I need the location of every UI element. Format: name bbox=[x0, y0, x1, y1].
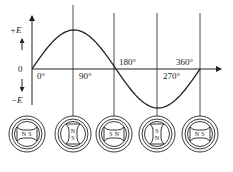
y-label-negative: −E bbox=[11, 95, 23, 105]
x-tick-360: 360° bbox=[176, 57, 194, 67]
magnet-icon bbox=[66, 124, 80, 144]
rotor-3: SN bbox=[139, 116, 175, 152]
magnet-icon bbox=[150, 124, 164, 144]
x-tick-90: 90° bbox=[79, 71, 92, 81]
pole-label: S bbox=[155, 128, 158, 134]
rotor-1: NS bbox=[55, 116, 91, 152]
y-label-positive: +E bbox=[10, 25, 22, 35]
rotor-4: NS bbox=[182, 116, 218, 152]
x-tick-180: 180° bbox=[119, 57, 137, 67]
pole-label: S bbox=[71, 135, 74, 141]
pole-label: N bbox=[22, 131, 27, 137]
pole-label: S bbox=[28, 131, 31, 137]
magnet-icon bbox=[17, 127, 37, 141]
rotor-row: NSNSSNSNNS bbox=[9, 116, 218, 152]
y-label-zero: 0 bbox=[18, 64, 23, 74]
pole-label: S bbox=[109, 131, 112, 137]
pole-label: N bbox=[115, 131, 120, 137]
emf-sine-diagram: +E 0 −E 0° 90° 180° 270° 360° NSNSSNSNNS bbox=[0, 0, 233, 172]
x-tick-270: 270° bbox=[163, 71, 181, 81]
pole-label: N bbox=[155, 135, 160, 141]
pole-label: N bbox=[71, 128, 76, 134]
pole-label: N bbox=[195, 131, 200, 137]
pole-label: S bbox=[201, 131, 204, 137]
x-tick-0: 0° bbox=[37, 71, 46, 81]
magnet-icon bbox=[190, 127, 210, 141]
rotor-0: NS bbox=[9, 116, 45, 152]
rotor-2: SN bbox=[96, 116, 132, 152]
